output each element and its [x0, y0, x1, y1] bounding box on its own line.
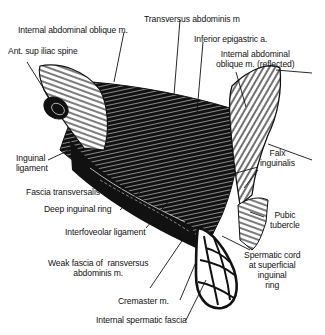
label-falx-inguinalis: Falx inguinalis	[260, 148, 295, 168]
label-inguinal-ligament: Inguinal ligament	[16, 153, 48, 173]
inguinal-anatomy-figure: Transversus abdominis m Internal abdomin…	[0, 0, 325, 335]
label-pubic-tubercle: Pubic tubercle	[270, 210, 300, 230]
label-spermatic-cord: Spermatic cord at superficial inguinal r…	[244, 250, 300, 290]
label-deep-inguinal-ring: Deep inguinal ring	[44, 204, 111, 214]
label-weak-fascia-transversus: Weak fascia of ransversus abdominis m.	[48, 258, 148, 278]
pubic-tubercle-shape	[238, 198, 268, 250]
internal-oblique-reflected	[229, 66, 280, 205]
label-cremaster: Cremaster m.	[118, 296, 169, 306]
label-ant-sup-iliac-spine: Ant. sup iliac spine	[8, 46, 78, 56]
label-inferior-epigastric: Inferior epigastric a.	[194, 34, 267, 44]
label-transversus-abdominis: Transversus abdominis m	[144, 14, 240, 24]
label-interfoveolar-ligament: Interfoveolar ligament	[65, 227, 145, 237]
label-internal-spermatic-fascia: Internal spermatic fascia	[96, 315, 187, 325]
label-internal-abdominal-oblique: Internal abdominal oblique m.	[18, 25, 128, 35]
label-internal-oblique-reflected: Internal abdominal oblique m. (reflected…	[216, 49, 295, 69]
label-fascia-transversalis: Fascia transversalis	[26, 187, 100, 197]
